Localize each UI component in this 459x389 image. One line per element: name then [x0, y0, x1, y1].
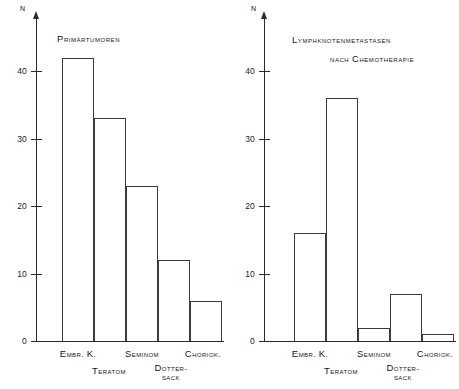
bar-dottersack-left: [158, 260, 190, 341]
bar-embr-k-left: [62, 58, 94, 342]
y-tick-label-0-left: 0: [6, 336, 27, 346]
y-axis-name-left: N: [20, 5, 25, 12]
y-tick-label-20-left: 20: [6, 201, 27, 211]
bars-group-right: [294, 57, 454, 341]
cat-label-seminom-left: Seminom: [116, 349, 168, 359]
y-tick-label-30-left: 30: [6, 134, 27, 144]
bar-teratom-left: [94, 118, 126, 341]
y-axis-name-right: N: [251, 5, 256, 12]
cat-label-dottersack-left: Dotter-sack: [145, 363, 197, 382]
cat-label-seminom-right: Seminom: [348, 349, 400, 359]
y-tick-40-left: [31, 71, 42, 72]
y-tick-label-10-left: 10: [6, 269, 27, 279]
cat-label-choriok-left: Choriok.: [178, 349, 228, 359]
bars-group-left: [62, 57, 222, 341]
x-axis-baseline-left: [36, 341, 224, 342]
figure-two-bar-charts: N 0 10 20 30 40 Primärtumoren: [0, 0, 459, 389]
y-tick-label-30-right: 30: [234, 134, 255, 144]
y-tick-20-left: [31, 206, 42, 207]
chart-panel-primaertumoren: N 0 10 20 30 40 Primärtumoren: [0, 0, 229, 389]
y-tick-label-20-right: 20: [234, 201, 255, 211]
cat-label-teratom-left: Teratom: [83, 366, 135, 376]
cat-label-choriok-right: Choriok.: [410, 349, 459, 359]
y-tick-label-40-right: 40: [234, 66, 255, 76]
y-tick-10-left: [31, 274, 42, 275]
bar-embr-k-right: [294, 233, 326, 341]
y-tick-20-right: [259, 206, 270, 207]
cat-label-embr-k-left: Embr. K.: [52, 349, 104, 359]
chart-title-left: Primärtumoren: [57, 33, 120, 44]
chart-panel-lymphknotenmetastasen: N 0 10 20 30 40 Lymphknotenmetastasen na…: [230, 0, 459, 389]
cat-label-teratom-right: Teratom: [315, 366, 367, 376]
bar-dottersack-right: [390, 294, 422, 341]
y-axis-line-right: [264, 18, 265, 342]
chart-title-right-line1: Lymphknotenmetastasen: [292, 34, 391, 45]
bar-seminom-right: [358, 328, 390, 342]
y-tick-10-right: [259, 274, 270, 275]
y-axis-line-left: [36, 18, 37, 342]
bar-teratom-right: [326, 98, 358, 341]
y-tick-label-10-right: 10: [234, 269, 255, 279]
y-tick-label-0-right: 0: [234, 336, 255, 346]
y-tick-30-right: [259, 139, 270, 140]
y-tick-label-40-left: 40: [6, 66, 27, 76]
cat-label-embr-k-right: Embr. K.: [284, 349, 336, 359]
y-tick-40-right: [259, 71, 270, 72]
x-axis-baseline-right: [264, 341, 456, 342]
cat-label-dottersack-right: Dotter-sack: [377, 363, 429, 382]
bar-choriok-left: [190, 301, 222, 342]
y-tick-30-left: [31, 139, 42, 140]
bar-choriok-right: [422, 334, 454, 341]
bar-seminom-left: [126, 186, 158, 341]
